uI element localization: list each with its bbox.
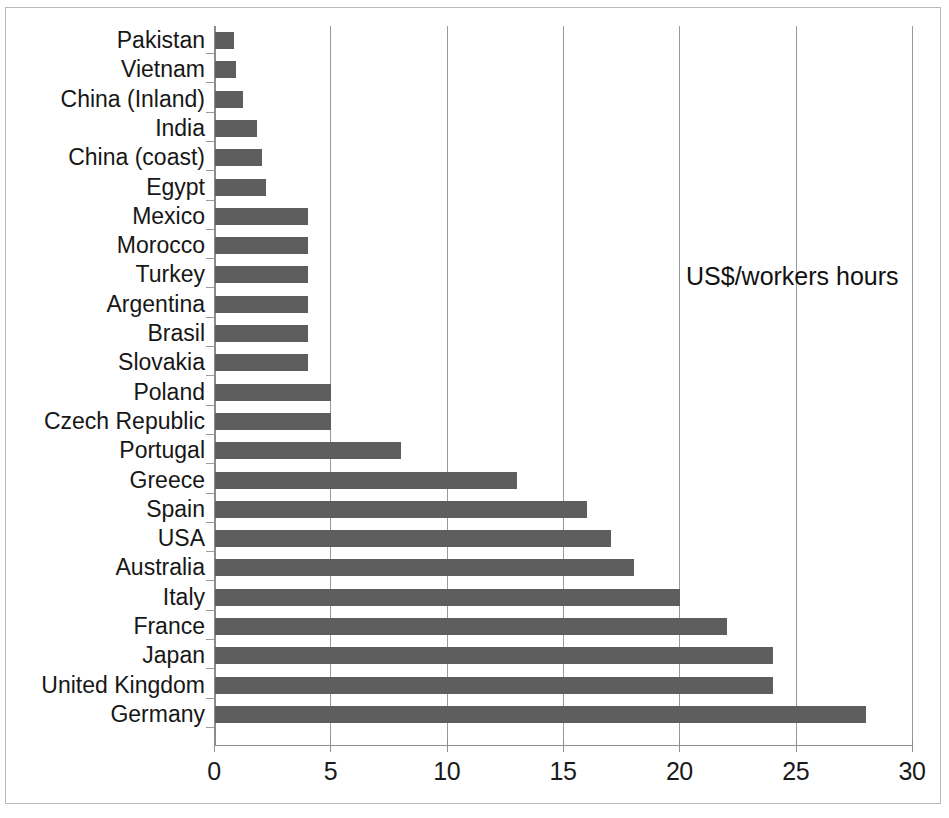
chart-annotation: US$/workers hours	[686, 262, 899, 291]
category-label: France	[0, 612, 215, 641]
category-label: United Kingdom	[0, 671, 215, 700]
category-tick	[206, 229, 215, 230]
category-label: Czech Republic	[0, 407, 215, 436]
bar	[215, 706, 866, 723]
chart-page: PakistanVietnamChina (Inland)IndiaChina …	[0, 0, 949, 818]
bar	[215, 384, 331, 401]
bar	[215, 208, 308, 225]
category-tick	[206, 551, 215, 552]
chart-row: Argentina	[0, 290, 949, 319]
category-label: Greece	[0, 466, 215, 495]
category-tick	[206, 522, 215, 523]
category-label: China (Inland)	[0, 85, 215, 114]
category-tick	[206, 639, 215, 640]
category-label: Egypt	[0, 173, 215, 202]
category-tick	[206, 727, 215, 728]
category-label: Morocco	[0, 231, 215, 260]
bar	[215, 354, 308, 371]
category-label: Japan	[0, 641, 215, 670]
bar	[215, 501, 587, 518]
chart-row: Poland	[0, 378, 949, 407]
category-label: Vietnam	[0, 55, 215, 84]
x-tick-25	[796, 739, 797, 752]
category-tick	[206, 463, 215, 464]
chart-row: China (Inland)	[0, 85, 949, 114]
category-tick	[206, 141, 215, 142]
bar	[215, 120, 257, 137]
bar-chart: PakistanVietnamChina (Inland)IndiaChina …	[0, 0, 949, 818]
x-tick-label: 15	[533, 757, 593, 786]
chart-row: Mexico	[0, 202, 949, 231]
bar	[215, 559, 634, 576]
x-tick-label: 30	[882, 757, 942, 786]
category-label: Spain	[0, 495, 215, 524]
bar	[215, 32, 234, 49]
bar	[215, 677, 773, 694]
bar	[215, 91, 243, 108]
category-tick	[206, 405, 215, 406]
x-tick-20	[679, 739, 680, 752]
bar	[215, 647, 773, 664]
chart-row: Portugal	[0, 436, 949, 465]
category-tick	[206, 580, 215, 581]
category-label: India	[0, 114, 215, 143]
chart-row: Australia	[0, 553, 949, 582]
category-tick	[206, 287, 215, 288]
category-tick	[206, 610, 215, 611]
category-tick	[206, 346, 215, 347]
category-label: Portugal	[0, 436, 215, 465]
chart-row: Spain	[0, 495, 949, 524]
category-label: Australia	[0, 553, 215, 582]
category-tick	[206, 317, 215, 318]
chart-row: Slovakia	[0, 348, 949, 377]
category-label: Mexico	[0, 202, 215, 231]
chart-row: Japan	[0, 641, 949, 670]
x-tick-0	[214, 739, 215, 752]
category-label: Pakistan	[0, 26, 215, 55]
category-label: Italy	[0, 583, 215, 612]
x-tick-label: 0	[184, 757, 244, 786]
category-label: Slovakia	[0, 348, 215, 377]
category-label: Argentina	[0, 290, 215, 319]
chart-row: USA	[0, 524, 949, 553]
category-tick	[206, 493, 215, 494]
category-tick	[206, 668, 215, 669]
category-tick	[206, 375, 215, 376]
bar	[215, 179, 266, 196]
chart-row: Brasil	[0, 319, 949, 348]
bar	[215, 325, 308, 342]
bar	[215, 589, 680, 606]
category-tick	[206, 200, 215, 201]
chart-row: Pakistan	[0, 26, 949, 55]
chart-row: United Kingdom	[0, 671, 949, 700]
bar	[215, 266, 308, 283]
category-tick	[206, 258, 215, 259]
plot-rows: PakistanVietnamChina (Inland)IndiaChina …	[0, 26, 949, 745]
category-label: Germany	[0, 700, 215, 729]
x-tick-10	[447, 739, 448, 752]
chart-row: Morocco	[0, 231, 949, 260]
x-tick-label: 25	[766, 757, 826, 786]
bar	[215, 530, 611, 547]
x-tick-30	[912, 739, 913, 752]
category-label: USA	[0, 524, 215, 553]
x-tick-15	[563, 739, 564, 752]
bar	[215, 618, 727, 635]
x-tick-label: 20	[649, 757, 709, 786]
chart-row: India	[0, 114, 949, 143]
category-tick	[206, 112, 215, 113]
x-tick-5	[330, 739, 331, 752]
category-label: Brasil	[0, 319, 215, 348]
category-label: China (coast)	[0, 143, 215, 172]
category-tick	[206, 82, 215, 83]
category-label: Turkey	[0, 260, 215, 289]
bar	[215, 237, 308, 254]
category-tick	[206, 434, 215, 435]
chart-row: Germany	[0, 700, 949, 729]
category-label: Poland	[0, 378, 215, 407]
chart-row: Italy	[0, 583, 949, 612]
bar	[215, 61, 236, 78]
bar	[215, 413, 331, 430]
chart-row: Egypt	[0, 173, 949, 202]
category-tick	[206, 170, 215, 171]
